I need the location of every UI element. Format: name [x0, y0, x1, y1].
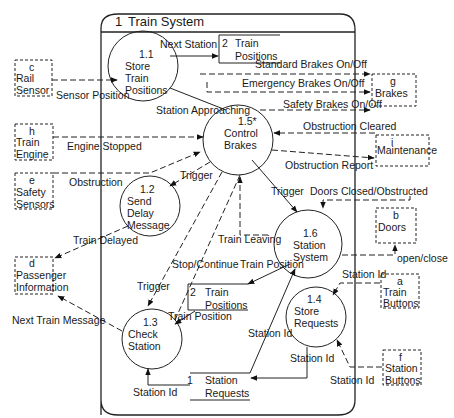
svg-text:Requests: Requests [205, 387, 249, 399]
svg-text:Station Id: Station Id [248, 327, 293, 339]
svg-text:Train: Train [235, 37, 259, 49]
svg-text:Sensors: Sensors [16, 198, 55, 210]
system-number: 1 [115, 14, 122, 29]
svg-text:1.2: 1.2 [140, 183, 155, 195]
svg-text:Station: Station [205, 374, 238, 386]
svg-text:Positions: Positions [125, 84, 168, 96]
svg-text:Brakes: Brakes [224, 139, 257, 151]
flow-station-id-5 [337, 340, 382, 367]
system-title: Train System [128, 14, 204, 29]
svg-text:Train: Train [16, 136, 40, 148]
flow-train-leaving [240, 177, 268, 235]
svg-text:d: d [29, 257, 35, 269]
svg-text:open/close: open/close [397, 252, 448, 264]
flow-obstruction-report [272, 150, 374, 158]
svg-text:Standard Brakes On/Off: Standard Brakes On/Off [255, 58, 367, 70]
svg-text:Next Train Message: Next Train Message [12, 314, 106, 326]
svg-text:Control: Control [224, 127, 258, 139]
svg-text:Station: Station [293, 239, 326, 251]
svg-text:Obstruction Report: Obstruction Report [285, 159, 373, 171]
svg-text:Train Leaving: Train Leaving [218, 233, 281, 245]
svg-text:Maintenance: Maintenance [377, 144, 437, 156]
svg-text:e: e [29, 174, 35, 186]
svg-text:Doors: Doors [378, 221, 406, 233]
svg-text:b: b [393, 209, 399, 221]
svg-text:Doors Closed/Obstructed: Doors Closed/Obstructed [310, 185, 428, 197]
svg-text:Station: Station [385, 362, 418, 374]
data-store-station-requests[interactable]: 1 Station Requests [187, 373, 250, 400]
flow-station-id-2 [250, 269, 295, 373]
svg-text:Trigger: Trigger [271, 185, 304, 197]
svg-text:Requests: Requests [294, 317, 338, 329]
svg-text:Message: Message [127, 219, 170, 231]
svg-text:1.6: 1.6 [303, 227, 318, 239]
flow-station-id-4 [333, 283, 380, 295]
svg-text:1.1: 1.1 [139, 48, 154, 60]
flow-station-id-1 [148, 369, 190, 385]
svg-text:Sensor: Sensor [16, 84, 50, 96]
svg-text:Trigger: Trigger [180, 169, 213, 181]
svg-text:Train: Train [125, 72, 149, 84]
svg-text:Train Position: Train Position [168, 310, 232, 322]
svg-text:1.5*: 1.5* [238, 115, 257, 127]
svg-text:Next Station: Next Station [160, 38, 217, 50]
svg-text:Trigger: Trigger [137, 280, 170, 292]
svg-text:Stop/Continue: Stop/Continue [172, 258, 239, 270]
svg-text:Train Position: Train Position [240, 258, 304, 270]
svg-text:Send: Send [127, 195, 152, 207]
svg-text:Station: Station [128, 340, 161, 352]
svg-text:Station Approaching: Station Approaching [156, 104, 250, 116]
svg-text:Obstruction: Obstruction [69, 176, 123, 188]
svg-text:Rail: Rail [16, 72, 34, 84]
flow-doors-closed [323, 196, 410, 208]
flow-obstruction [53, 152, 200, 173]
svg-text:Station Id: Station Id [290, 352, 335, 364]
svg-text:Train Delayed: Train Delayed [73, 234, 138, 246]
svg-text:Buttons: Buttons [385, 374, 421, 386]
svg-text:Engine Stopped: Engine Stopped [67, 140, 142, 152]
svg-text:Buttons: Buttons [383, 297, 419, 309]
svg-text:Information: Information [16, 281, 69, 293]
svg-text:2: 2 [222, 37, 228, 49]
process-1-4[interactable]: 1.4 Store Requests [286, 287, 346, 347]
svg-text:Engine: Engine [16, 148, 49, 160]
svg-text:Emergency Brakes On/Off: Emergency Brakes On/Off [242, 77, 364, 89]
svg-text:1.4: 1.4 [307, 293, 322, 305]
flow-open-close [342, 245, 395, 255]
svg-text:Station Id: Station Id [342, 268, 387, 280]
svg-text:Passenger: Passenger [16, 269, 67, 281]
svg-text:g: g [390, 75, 396, 87]
svg-text:Store: Store [125, 60, 150, 72]
data-store-train-positions-mid[interactable]: 2 Train Positions [188, 284, 248, 311]
svg-text:Safety Brakes On/Off: Safety Brakes On/Off [283, 98, 382, 110]
svg-text:Train: Train [205, 286, 229, 298]
svg-text:Obstruction Cleared: Obstruction Cleared [303, 120, 397, 132]
data-flow-diagram: 1 Train System 1.1 Store Train Positions… [0, 0, 454, 418]
svg-text:Check: Check [128, 328, 159, 340]
svg-text:Sensor Position: Sensor Position [56, 89, 130, 101]
svg-text:Safety: Safety [16, 186, 47, 198]
svg-text:Station Id: Station Id [330, 374, 375, 386]
svg-text:1: 1 [187, 374, 193, 386]
svg-text:Station Id: Station Id [133, 386, 178, 398]
svg-text:1.3: 1.3 [143, 316, 158, 328]
svg-text:2: 2 [190, 286, 196, 298]
svg-text:Store: Store [294, 305, 319, 317]
svg-text:Delay: Delay [127, 207, 155, 219]
